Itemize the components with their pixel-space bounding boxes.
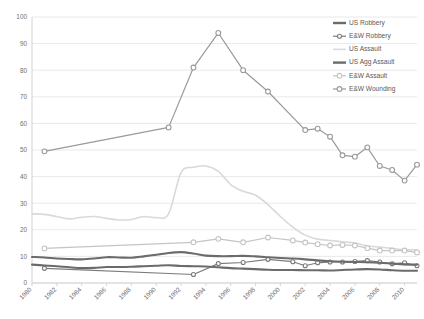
- y-tick-label: 20: [20, 226, 28, 233]
- legend-label: E&W Wounding: [349, 85, 396, 93]
- x-tick-label: 1982: [43, 285, 58, 300]
- legend-item[interactable]: E&W Assault: [333, 72, 387, 79]
- legend-label: US Robbery: [349, 19, 386, 27]
- x-tick-label: 1988: [117, 285, 132, 300]
- y-tick-label: 40: [20, 173, 28, 180]
- x-tick-label: 2004: [316, 285, 331, 300]
- x-tick-label: 2010: [390, 285, 405, 300]
- data-point: [216, 236, 221, 241]
- series-line: [32, 166, 417, 250]
- data-point: [166, 125, 171, 130]
- data-point: [340, 243, 345, 248]
- data-point: [303, 264, 307, 268]
- legend-item[interactable]: US Agg Assault: [333, 58, 395, 66]
- data-point: [266, 89, 271, 94]
- legend-marker-icon: [337, 87, 342, 92]
- data-point: [353, 243, 358, 248]
- data-point: [241, 240, 246, 245]
- data-point: [315, 126, 320, 131]
- data-point: [241, 68, 246, 73]
- data-point: [328, 243, 333, 248]
- y-tick-label: 70: [20, 93, 28, 100]
- data-point: [42, 246, 47, 251]
- x-tick-label: 1980: [18, 285, 33, 300]
- data-point: [290, 238, 295, 243]
- y-tick-label: 10: [20, 253, 28, 260]
- legend: US RobberyE&W RobberyUS AssaultUS Agg As…: [333, 19, 396, 93]
- data-point: [402, 178, 407, 183]
- x-tick-label: 1994: [192, 285, 207, 300]
- data-point: [353, 154, 358, 159]
- data-point: [415, 162, 420, 167]
- x-tick-label: 1986: [92, 285, 107, 300]
- data-point: [402, 248, 407, 253]
- data-point: [390, 248, 395, 253]
- y-tick-label: 50: [20, 146, 28, 153]
- data-point: [390, 168, 395, 173]
- data-point: [365, 246, 370, 251]
- series-e-w-wounding: [42, 31, 419, 183]
- legend-item[interactable]: E&W Robbery: [333, 32, 391, 40]
- data-point: [315, 242, 320, 247]
- data-point: [191, 272, 195, 276]
- data-point: [42, 149, 47, 154]
- data-point: [291, 260, 295, 264]
- data-point: [241, 261, 245, 265]
- x-tick-label: 1996: [216, 285, 231, 300]
- legend-marker-icon: [337, 73, 342, 78]
- legend-label: US Agg Assault: [349, 58, 395, 66]
- data-point: [42, 266, 46, 270]
- y-tick-label: 30: [20, 200, 28, 207]
- chart-svg: 0102030405060708090100198019821984198619…: [0, 0, 424, 319]
- data-point: [266, 235, 271, 240]
- legend-item[interactable]: US Assault: [333, 45, 381, 52]
- x-tick-label: 2006: [341, 285, 356, 300]
- data-point: [377, 248, 382, 253]
- x-tick-label: 1990: [142, 285, 157, 300]
- data-point: [216, 31, 221, 36]
- x-tick-label: 1992: [167, 285, 182, 300]
- series-line: [44, 33, 417, 181]
- chart-container: 0102030405060708090100198019821984198619…: [0, 0, 424, 319]
- y-tick-label: 80: [20, 67, 28, 74]
- x-tick-label: 2008: [365, 285, 380, 300]
- series-us-assault: [32, 166, 417, 250]
- x-tick-label: 1998: [241, 285, 256, 300]
- legend-marker-icon: [338, 34, 342, 38]
- x-tick-label: 2000: [266, 285, 281, 300]
- x-tick-label: 1984: [67, 285, 82, 300]
- data-point: [191, 65, 196, 70]
- data-point: [216, 262, 220, 266]
- legend-label: E&W Robbery: [349, 32, 391, 40]
- data-point: [191, 240, 196, 245]
- data-point: [303, 128, 308, 133]
- y-tick-labels: 0102030405060708090100: [16, 13, 27, 286]
- x-tick-labels: 1980198219841986198819901992199419961998…: [18, 283, 406, 301]
- data-point: [365, 145, 370, 150]
- y-tick-label: 60: [20, 120, 28, 127]
- legend-label: US Assault: [349, 45, 381, 52]
- data-point: [328, 134, 333, 139]
- legend-label: E&W Assault: [349, 72, 387, 79]
- data-point: [303, 240, 308, 245]
- data-point: [415, 250, 420, 255]
- legend-item[interactable]: US Robbery: [333, 19, 386, 27]
- data-point: [377, 164, 382, 169]
- y-tick-label: 90: [20, 40, 28, 47]
- y-tick-label: 100: [16, 13, 27, 20]
- gridlines: [32, 17, 417, 283]
- legend-item[interactable]: E&W Wounding: [333, 85, 396, 93]
- data-point: [340, 153, 345, 158]
- x-tick-label: 2002: [291, 285, 306, 300]
